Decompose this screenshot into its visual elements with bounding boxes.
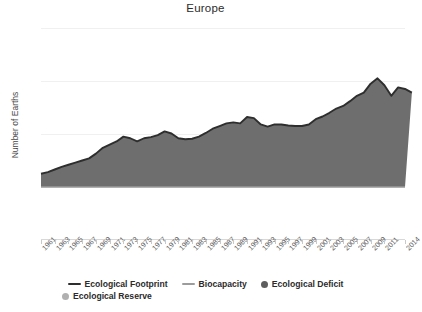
y-axis-label: Number of Earths <box>10 70 20 180</box>
ecological-deficit-area <box>41 78 412 187</box>
legend-item-biocapacity[interactable]: Biocapacity <box>182 278 247 290</box>
legend-item-ecological-reserve[interactable]: Ecological Reserve <box>62 290 152 302</box>
chart-title: Europe <box>0 2 411 14</box>
line-swatch-icon <box>68 283 81 286</box>
legend-row-primary: Ecological FootprintBiocapacityEcologica… <box>0 278 411 290</box>
legend-label: Biocapacity <box>199 278 247 290</box>
dot-swatch-icon <box>62 293 69 300</box>
chart-legend: Ecological FootprintBiocapacityEcologica… <box>0 278 411 302</box>
legend-row-secondary: Ecological Reserve <box>0 290 411 302</box>
plot-area <box>41 28 405 240</box>
legend-item-ecological-footprint[interactable]: Ecological Footprint <box>68 278 168 290</box>
legend-label: Ecological Reserve <box>73 290 152 302</box>
legend-item-ecological-deficit[interactable]: Ecological Deficit <box>261 278 344 290</box>
dot-swatch-icon <box>261 281 268 288</box>
x-axis-ticks: 1961196319651967196919711973197519771979… <box>41 240 405 241</box>
legend-label: Ecological Deficit <box>272 278 344 290</box>
series-svg <box>41 28 405 240</box>
x-tick-label-2014: 2014 <box>404 235 422 253</box>
line-swatch-icon <box>182 283 195 286</box>
legend-label: Ecological Footprint <box>85 278 168 290</box>
